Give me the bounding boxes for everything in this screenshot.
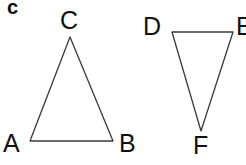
vertex-label-a: A <box>3 131 20 156</box>
vertex-label-c: C <box>60 8 78 33</box>
part-label-c: c <box>7 0 18 17</box>
triangle-def <box>172 32 233 131</box>
vertex-label-e: E <box>236 14 246 39</box>
vertex-label-f: F <box>193 133 208 158</box>
vertex-label-d: D <box>143 14 161 39</box>
triangle-abc <box>30 37 113 141</box>
vertex-label-b: B <box>119 131 136 156</box>
geometry-figure: c C A B D E F <box>0 0 246 165</box>
